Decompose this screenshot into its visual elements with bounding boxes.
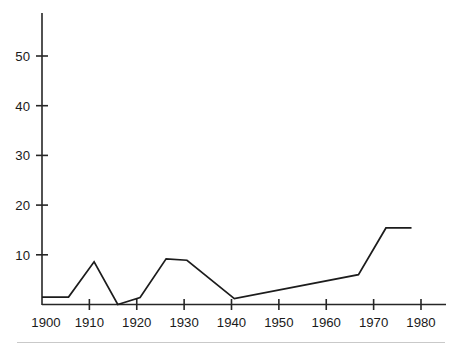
x-tick-label-1960: 1960 — [312, 315, 341, 330]
x-tick-label-1970: 1970 — [359, 315, 388, 330]
y-tick-label-50: 50 — [15, 49, 30, 64]
x-tick-label-1920: 1920 — [122, 315, 151, 330]
x-tick-label-1930: 1930 — [169, 315, 198, 330]
y-tick-label-10: 10 — [15, 248, 30, 263]
chart-figure: 1020304050 19001910192019301940195019601… — [0, 0, 459, 350]
footer-divider — [17, 342, 445, 343]
x-axis-tick-labels: 190019101920193019401950196019701980 — [31, 315, 435, 330]
x-tick-label-1950: 1950 — [264, 315, 293, 330]
y-tick-label-20: 20 — [15, 198, 30, 213]
y-axis: 1020304050 — [15, 13, 48, 305]
x-tick-label-1900: 1900 — [31, 315, 60, 330]
series-line-1 — [42, 228, 412, 305]
x-tick-label-1980: 1980 — [406, 315, 435, 330]
y-axis-tick-labels: 1020304050 — [15, 49, 30, 263]
x-tick-label-1910: 1910 — [75, 315, 104, 330]
data-series-group — [42, 228, 412, 305]
y-tick-label-40: 40 — [15, 99, 30, 114]
x-axis: 190019101920193019401950196019701980 — [31, 299, 446, 330]
x-tick-label-1940: 1940 — [217, 315, 246, 330]
y-tick-label-30: 30 — [15, 148, 30, 163]
line-chart-plot: 1020304050 19001910192019301940195019601… — [0, 0, 459, 350]
